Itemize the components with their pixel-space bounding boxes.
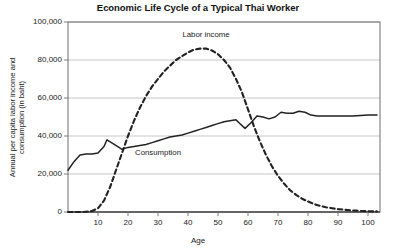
y-tick-marks <box>64 22 68 212</box>
plot-frame <box>68 22 380 212</box>
series-label: Labor income <box>182 30 229 39</box>
series-line <box>68 111 377 170</box>
gridlines <box>68 22 380 174</box>
series-label: Consumption <box>135 148 181 157</box>
economic-life-cycle-chart: Economic Life Cycle of a Typical Thai Wo… <box>0 0 396 251</box>
series-layer <box>68 49 377 212</box>
series-line <box>68 49 377 212</box>
